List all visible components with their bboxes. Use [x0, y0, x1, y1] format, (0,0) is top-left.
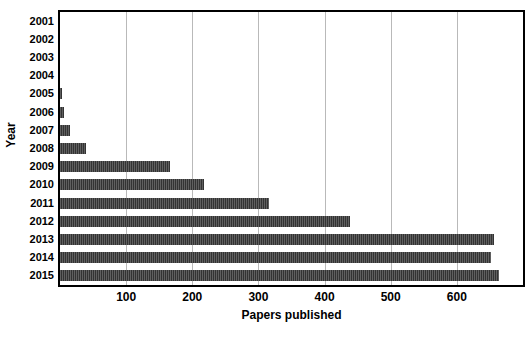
x-tick-300: 300	[233, 290, 283, 304]
x-tick-500: 500	[366, 290, 416, 304]
bar-2015	[60, 270, 499, 281]
bar-row	[60, 230, 494, 248]
bar-2009	[60, 161, 170, 172]
x-tick-100: 100	[101, 290, 151, 304]
bar-2014	[60, 252, 491, 263]
x-tick-400: 400	[300, 290, 350, 304]
bar-2010	[60, 179, 204, 190]
bar-row	[60, 139, 86, 157]
bar-chart: Year 20012002200320042005200620072008200…	[0, 0, 531, 340]
bar-2005	[60, 88, 62, 99]
bar-row	[60, 121, 70, 139]
scan-artifact	[0, 332, 531, 340]
bar-2007	[60, 125, 70, 136]
bar-2008	[60, 143, 86, 154]
bar-row	[60, 158, 170, 176]
x-axis-tick-labels: 100200300400500600	[58, 290, 525, 306]
x-axis-title: Papers published	[58, 308, 525, 322]
y-tick-2009: 2009	[2, 161, 54, 172]
y-tick-2011: 2011	[2, 198, 54, 209]
y-tick-2001: 2001	[2, 16, 54, 27]
bar-2013	[60, 234, 494, 245]
y-axis-tick-labels: 2001200220032004200520062007200820092010…	[0, 10, 54, 287]
bar-row	[60, 85, 62, 103]
bar-row	[60, 267, 499, 285]
bar-2012	[60, 216, 350, 227]
y-tick-2004: 2004	[2, 70, 54, 81]
y-tick-2012: 2012	[2, 216, 54, 227]
plot-inner	[60, 12, 523, 285]
bar-2011	[60, 198, 269, 209]
x-tick-600: 600	[432, 290, 482, 304]
y-tick-2014: 2014	[2, 252, 54, 263]
y-tick-2006: 2006	[2, 107, 54, 118]
y-tick-2002: 2002	[2, 34, 54, 45]
y-tick-2008: 2008	[2, 143, 54, 154]
bar-row	[60, 194, 269, 212]
y-tick-2010: 2010	[2, 179, 54, 190]
y-tick-2007: 2007	[2, 125, 54, 136]
x-tick-200: 200	[167, 290, 217, 304]
bar-2006	[60, 107, 64, 118]
y-tick-2005: 2005	[2, 88, 54, 99]
plot-area	[58, 10, 525, 287]
bar-row	[60, 212, 350, 230]
bar-row	[60, 176, 204, 194]
bar-row	[60, 249, 491, 267]
bar-row	[60, 103, 64, 121]
y-tick-2015: 2015	[2, 270, 54, 281]
y-tick-2003: 2003	[2, 52, 54, 63]
y-tick-2013: 2013	[2, 234, 54, 245]
